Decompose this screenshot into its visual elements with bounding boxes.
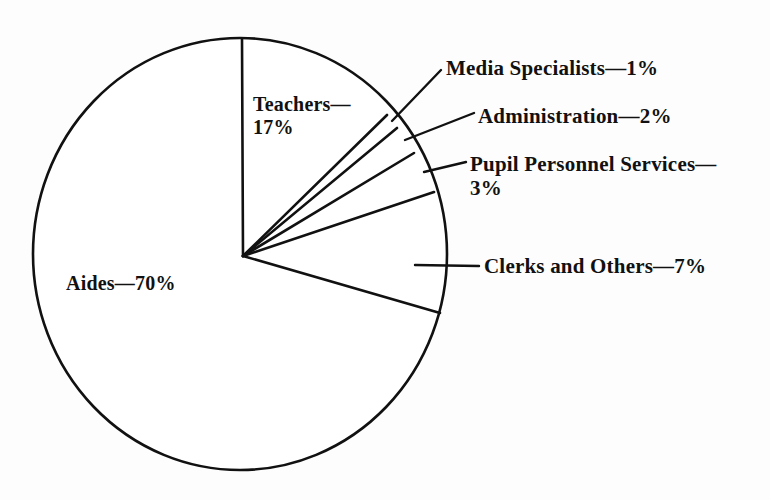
leader-line-clerks-and-others [415, 265, 479, 266]
pie-label-media-specialists: Media Specialists—1% [446, 56, 658, 80]
pie-chart-figure: Teachers— 17% Media Specialists—1% Admin… [0, 0, 770, 500]
pie-label-aides: Aides—70% [66, 272, 176, 295]
pie-label-teachers: Teachers— 17% [253, 93, 373, 139]
pie-label-pupil-personnel-services: Pupil Personnel Services— 3% [470, 152, 762, 201]
leader-line-administration [405, 113, 474, 140]
pie-outline [33, 38, 447, 470]
pie-label-administration: Administration—2% [478, 104, 672, 128]
pie-label-clerks-and-others: Clerks and Others—7% [484, 254, 706, 278]
leader-line-media-specialists [392, 70, 441, 121]
divider-aides-teachers [242, 39, 243, 256]
